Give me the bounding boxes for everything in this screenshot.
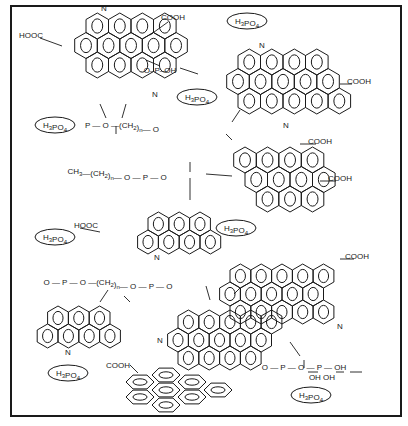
graphene-sheet [220, 264, 334, 324]
benzene-ring [220, 346, 241, 370]
aromatic-circle [148, 38, 159, 52]
graphene-sheet [168, 310, 282, 370]
aromatic-circle [204, 315, 214, 328]
h3po4-text: H3PO4 [43, 121, 68, 133]
aromatic-circle [296, 172, 307, 186]
aromatic-circle [307, 192, 318, 206]
benzene-ring [238, 88, 261, 114]
benzene-ring [126, 375, 154, 389]
aromatic-circle [285, 192, 296, 206]
benzene-ring [190, 212, 211, 236]
aromatic-circle [266, 94, 277, 108]
h3po4-label: H3PO4 [227, 13, 267, 29]
h3po4-text: H3PO4 [56, 369, 81, 381]
phosphate-linker-label: O–P–OH [144, 66, 177, 75]
benzene-ring [317, 69, 340, 95]
carboxyl-group-label: COOH [161, 13, 185, 22]
aromatic-circle [204, 351, 214, 364]
h3po4-label: H3PO4 [291, 387, 331, 403]
aromatic-circle [267, 287, 277, 300]
nitrogen-atom-label: N [283, 121, 289, 130]
benzene-ring [109, 52, 132, 78]
benzene-ring [178, 346, 199, 370]
graphene-sheet-flat [126, 368, 232, 412]
benzene-ring [138, 230, 159, 254]
benzene-ring [256, 147, 279, 173]
aromatic-circle [133, 379, 147, 385]
benzene-ring [238, 49, 261, 75]
h3po4-text: H3PO4 [235, 17, 260, 29]
aromatic-circle [298, 305, 308, 318]
aromatic-circle [307, 153, 318, 167]
aromatic-circle [159, 387, 173, 393]
benzene-ring [261, 88, 284, 114]
carboxyl-group-label: COOH [106, 361, 130, 370]
benzene-ring [126, 390, 154, 404]
benzene-ring [261, 282, 282, 306]
aromatic-circle [114, 58, 125, 72]
nitrogen-atom-label: N [157, 336, 163, 345]
benzene-ring [68, 306, 89, 330]
benzene-ring [100, 324, 121, 348]
aromatic-circle [251, 172, 262, 186]
aromatic-circle [164, 235, 174, 248]
aromatic-circle [205, 235, 215, 248]
aromatic-circle [105, 329, 115, 342]
phosphate-linker-label: OH OH [309, 373, 335, 382]
aromatic-circle [43, 329, 53, 342]
bond-line [122, 104, 126, 118]
aromatic-circle [103, 38, 114, 52]
benzene-ring [120, 33, 143, 59]
bond-line [130, 365, 138, 373]
h3po4-label: H3PO4 [216, 220, 256, 236]
phosphate-bonds [40, 22, 362, 373]
benzene-ring [283, 88, 306, 114]
h3po4-label: H3PO4 [35, 117, 75, 133]
bond-line [40, 38, 62, 46]
benzene-ring [165, 33, 188, 59]
benzene-ring [158, 230, 179, 254]
benzene-ring [89, 306, 110, 330]
aromatic-circle [174, 217, 184, 230]
aromatic-circle [211, 387, 225, 393]
benzene-ring [220, 282, 241, 306]
bond-line [180, 68, 198, 74]
benzene-ring [245, 167, 268, 193]
aromatic-circle [240, 153, 251, 167]
benzene-ring [292, 300, 313, 324]
aromatic-circle [278, 74, 289, 88]
benzene-ring [199, 310, 220, 334]
carboxyl-group-label: COOH [308, 137, 332, 146]
benzene-ring [306, 88, 329, 114]
benzene-ring [251, 264, 272, 288]
phosphate-linker-label: P — O —(CH2)n— O [85, 121, 159, 134]
aromatic-circle [185, 394, 199, 400]
nitrogen-atom-label: N [152, 90, 158, 99]
aromatic-circle [126, 38, 137, 52]
phosphate-linker-label: O — P — O —(CH2)n— O — P — O [43, 278, 172, 291]
aromatic-circle [153, 217, 163, 230]
benzene-ring [178, 390, 206, 404]
aromatic-circle [185, 379, 199, 385]
benzene-ring [152, 383, 180, 397]
carboxyl-group-label: HOOC [19, 31, 43, 40]
benzene-ring [303, 282, 324, 306]
h3po4-label: H3PO4 [48, 365, 88, 381]
benzene-ring [148, 212, 169, 236]
h3po4-text: H3PO4 [185, 93, 210, 105]
bond-line [206, 174, 232, 176]
benzene-ring [204, 383, 232, 397]
aromatic-circle [133, 394, 147, 400]
nitrogen-atom-label: N [154, 253, 160, 262]
benzene-ring [272, 264, 293, 288]
benzene-ring [48, 306, 69, 330]
benzene-ring [328, 88, 351, 114]
benzene-ring [200, 230, 221, 254]
aromatic-circle [53, 311, 63, 324]
aromatic-circle [318, 305, 328, 318]
h3po4-text: H3PO4 [224, 224, 249, 236]
benzene-ring [268, 167, 291, 193]
aromatic-circle [92, 58, 103, 72]
benzene-ring [294, 69, 317, 95]
aromatic-circle [266, 55, 277, 69]
